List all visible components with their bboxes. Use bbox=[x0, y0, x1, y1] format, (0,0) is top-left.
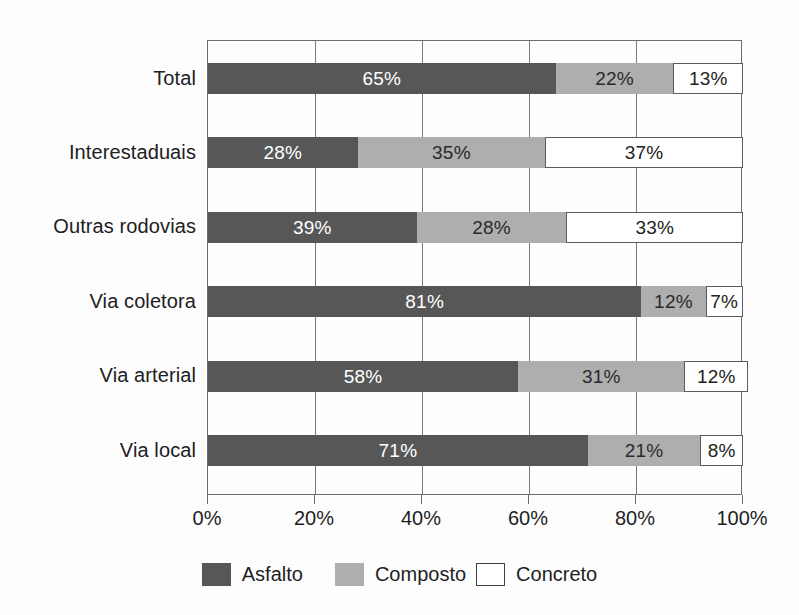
x-axis-tick bbox=[742, 495, 743, 504]
bar-segment-composto: 12% bbox=[641, 286, 705, 317]
category-label: Via local bbox=[0, 440, 196, 460]
bar-segment-value: 28% bbox=[264, 143, 303, 162]
bar-segment-composto: 35% bbox=[358, 137, 545, 168]
chart-legend: AsfaltoCompostoConcreto bbox=[0, 553, 799, 595]
bar-segment-value: 7% bbox=[710, 292, 738, 311]
bar-row: 81%12%7% bbox=[208, 286, 741, 317]
bar-segment-asfalto: 71% bbox=[208, 435, 588, 466]
bar-segment-value: 31% bbox=[582, 367, 621, 386]
legend-item-composto: Composto bbox=[335, 563, 466, 586]
legend-item-concreto: Concreto bbox=[476, 563, 597, 586]
bar-segment-composto: 31% bbox=[518, 361, 684, 392]
bar-segment-value: 8% bbox=[708, 441, 736, 460]
category-label: Interestaduais bbox=[0, 142, 196, 162]
bar-row: 71%21%8% bbox=[208, 435, 741, 466]
x-axis-tick-label: 60% bbox=[508, 507, 548, 529]
bar-segment-value: 28% bbox=[472, 218, 511, 237]
gridline bbox=[636, 41, 637, 494]
x-axis-tick bbox=[528, 495, 529, 504]
category-label-column: TotalInterestaduaisOutras rodoviasVia co… bbox=[0, 0, 196, 615]
legend-swatch-icon bbox=[476, 563, 505, 586]
bar-segment-value: 37% bbox=[625, 143, 664, 162]
legend-label: Concreto bbox=[516, 563, 597, 585]
category-label: Outras rodovias bbox=[0, 216, 196, 236]
bar-segment-value: 22% bbox=[595, 69, 634, 88]
x-axis-tick-label: 0% bbox=[193, 507, 222, 529]
bar-segment-composto: 21% bbox=[588, 435, 700, 466]
bar-segment-value: 58% bbox=[344, 367, 383, 386]
bar-segment-concreto: 8% bbox=[700, 435, 743, 466]
legend-swatch-icon bbox=[202, 563, 231, 586]
bar-segment-concreto: 33% bbox=[566, 212, 743, 243]
bar-row: 28%35%37% bbox=[208, 137, 741, 168]
plot-area: 65%22%13%28%35%37%39%28%33%81%12%7%58%31… bbox=[207, 40, 742, 495]
legend-label: Asfalto bbox=[242, 563, 303, 585]
bar-segment-concreto: 13% bbox=[673, 63, 743, 94]
bar-segment-asfalto: 58% bbox=[208, 361, 518, 392]
bar-segment-value: 21% bbox=[625, 441, 664, 460]
legend-item-asfalto: Asfalto bbox=[202, 563, 303, 586]
x-axis-tick-label: 20% bbox=[294, 507, 334, 529]
bar-segment-concreto: 7% bbox=[706, 286, 743, 317]
x-axis-tick bbox=[421, 495, 422, 504]
stacked-bar-chart: TotalInterestaduaisOutras rodoviasVia co… bbox=[0, 0, 799, 615]
x-axis-tick bbox=[207, 495, 208, 504]
bar-segment-concreto: 12% bbox=[684, 361, 748, 392]
category-label: Via arterial bbox=[0, 365, 196, 385]
bar-segment-asfalto: 28% bbox=[208, 137, 358, 168]
bar-segment-asfalto: 81% bbox=[208, 286, 641, 317]
legend-label: Composto bbox=[375, 563, 466, 585]
category-label: Via coletora bbox=[0, 291, 196, 311]
x-axis-tick bbox=[635, 495, 636, 504]
bar-row: 58%31%12% bbox=[208, 361, 741, 392]
gridline bbox=[315, 41, 316, 494]
bar-segment-value: 13% bbox=[689, 69, 728, 88]
x-axis-tick-label: 100% bbox=[716, 507, 767, 529]
x-axis-tick-label: 40% bbox=[401, 507, 441, 529]
bar-segment-value: 12% bbox=[697, 367, 736, 386]
category-label: Total bbox=[0, 68, 196, 88]
gridline bbox=[529, 41, 530, 494]
bar-segment-asfalto: 65% bbox=[208, 63, 556, 94]
bar-segment-concreto: 37% bbox=[545, 137, 743, 168]
bar-segment-value: 33% bbox=[635, 218, 674, 237]
x-axis-tick-label: 80% bbox=[615, 507, 655, 529]
bar-segment-asfalto: 39% bbox=[208, 212, 417, 243]
bar-segment-value: 71% bbox=[379, 441, 418, 460]
gridline bbox=[422, 41, 423, 494]
x-axis-tick bbox=[314, 495, 315, 504]
legend-swatch-icon bbox=[335, 563, 364, 586]
bar-segment-value: 39% bbox=[293, 218, 332, 237]
bar-segment-value: 81% bbox=[405, 292, 444, 311]
bar-segment-value: 65% bbox=[363, 69, 402, 88]
bar-segment-composto: 22% bbox=[556, 63, 674, 94]
bar-segment-value: 35% bbox=[432, 143, 471, 162]
bar-segment-composto: 28% bbox=[417, 212, 567, 243]
bar-row: 65%22%13% bbox=[208, 63, 741, 94]
bar-segment-value: 12% bbox=[654, 292, 693, 311]
bar-row: 39%28%33% bbox=[208, 212, 741, 243]
